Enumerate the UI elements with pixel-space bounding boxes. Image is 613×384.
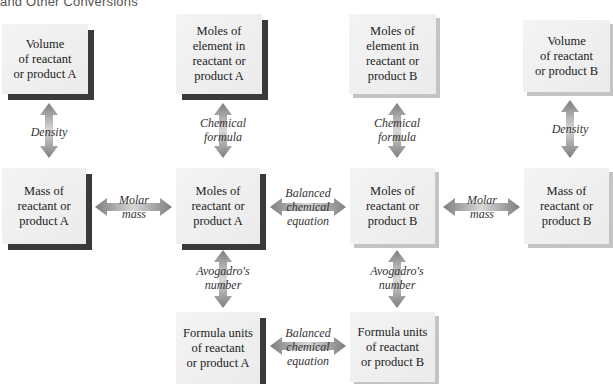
box-formula-units-b-text: Formula units of reactant or product B <box>358 325 428 370</box>
box-volume-a-text: Volume of reactant or product A <box>13 37 76 82</box>
box-mass-b-text: Mass of reactant or product B <box>540 184 593 229</box>
label-density-a: Density <box>19 125 79 139</box>
box-volume-b-text: Volume of reactant or product B <box>535 34 598 79</box>
box-mass-a-text: Mass of reactant or product A <box>17 184 70 229</box>
box-moles-a: Moles of reactant or product A <box>176 168 260 244</box>
label-molar-mass-b: Molar mass <box>452 193 512 221</box>
box-formula-units-b: Formula units of reactant or product B <box>350 312 435 382</box>
box-moles-element-a: Moles of element in reactant or product … <box>176 14 262 94</box>
box-formula-units-a: Formula units of reactant or product A <box>176 312 260 384</box>
box-moles-element-b: Moles of element in reactant or product … <box>349 14 436 94</box>
label-density-b: Density <box>540 122 600 136</box>
box-mass-b: Mass of reactant or product B <box>524 168 609 244</box>
label-balanced-equation-moles: Balanced chemical equation <box>278 186 338 228</box>
label-avogadro-a: Avogadro's number <box>188 264 258 292</box>
box-moles-b: Moles of reactant or product B <box>350 168 435 244</box>
box-moles-a-text: Moles of reactant or product A <box>191 184 244 229</box>
label-avogadro-b: Avogadro's number <box>362 264 432 292</box>
label-molar-mass-a: Molar mass <box>104 193 164 221</box>
label-chemical-formula-a: Chemical formula <box>193 116 253 144</box>
box-moles-element-b-text: Moles of element in reactant or product … <box>366 24 419 84</box>
box-moles-b-text: Moles of reactant or product B <box>366 184 419 229</box>
box-volume-a: Volume of reactant or product A <box>2 24 88 94</box>
label-chemical-formula-b: Chemical formula <box>367 116 427 144</box>
label-balanced-equation-units: Balanced chemical equation <box>278 326 338 368</box>
box-mass-a: Mass of reactant or product A <box>2 168 86 244</box>
box-volume-b: Volume of reactant or product B <box>523 20 610 92</box>
box-moles-element-a-text: Moles of element in reactant or product … <box>192 24 245 84</box>
box-formula-units-a-text: Formula units of reactant or product A <box>183 326 253 371</box>
